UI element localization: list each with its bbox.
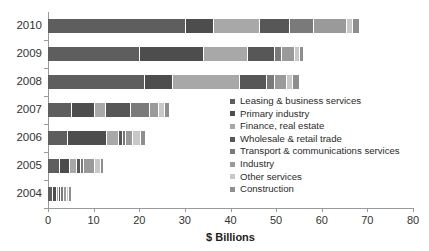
y-tick-mark <box>44 40 48 41</box>
bar-segment[interactable] <box>70 159 77 173</box>
x-tick-mark <box>367 208 368 212</box>
bar-2008[interactable] <box>0 75 429 89</box>
bar-segment[interactable] <box>275 75 287 89</box>
x-tick-label-80: 80 <box>393 214 429 226</box>
legend-swatch-icon <box>230 124 235 129</box>
bar-segment[interactable] <box>133 131 140 145</box>
y-tick-mark <box>44 124 48 125</box>
bar-segment[interactable] <box>260 19 290 33</box>
bar-segment[interactable] <box>314 19 347 33</box>
bar-segment[interactable] <box>101 159 103 173</box>
bar-segment[interactable] <box>290 19 314 33</box>
legend-label: Construction <box>240 183 294 196</box>
legend-swatch-icon <box>230 174 235 179</box>
x-tick-label-60: 60 <box>302 214 342 226</box>
x-tick-label-30: 30 <box>165 214 205 226</box>
legend-item-4[interactable]: Transport & communications services <box>230 145 420 158</box>
legend-item-2[interactable]: Finance, real estate <box>230 120 420 133</box>
legend-label: Primary industry <box>240 108 309 121</box>
stacked-bar-chart: 2010200920082007200620052004 01020304050… <box>0 0 429 251</box>
bar-segment[interactable] <box>131 103 149 117</box>
bar-segment[interactable] <box>300 47 304 61</box>
legend-swatch-icon <box>230 149 235 154</box>
legend-item-0[interactable]: Leasing & business services <box>230 95 420 108</box>
legend-label: Industry <box>240 158 274 171</box>
bar-segment[interactable] <box>95 103 106 117</box>
legend-item-1[interactable]: Primary industry <box>230 108 420 121</box>
x-tick-label-50: 50 <box>256 214 296 226</box>
bar-segment[interactable] <box>214 19 260 33</box>
legend-swatch-icon <box>230 111 235 116</box>
x-tick-mark <box>48 208 49 212</box>
bar-segment[interactable] <box>140 47 203 61</box>
bar-segment[interactable] <box>248 47 274 61</box>
bar-segment[interactable] <box>141 131 145 145</box>
bar-segment[interactable] <box>106 103 132 117</box>
legend-item-3[interactable]: Wholesale & retail trade <box>230 133 420 146</box>
legend-label: Other services <box>240 171 302 184</box>
bar-segment[interactable] <box>267 75 275 89</box>
x-tick-label-70: 70 <box>347 214 387 226</box>
bar-segment[interactable] <box>293 75 298 89</box>
bar-segment[interactable] <box>186 19 214 33</box>
legend-swatch-icon <box>230 99 235 104</box>
x-tick-label-0: 0 <box>28 214 68 226</box>
bar-segment[interactable] <box>48 131 68 145</box>
bar-2009[interactable] <box>0 47 429 61</box>
bar-segment[interactable] <box>48 159 60 173</box>
legend-item-7[interactable]: Construction <box>230 183 420 196</box>
x-tick-label-40: 40 <box>211 214 251 226</box>
x-tick-mark <box>231 208 232 212</box>
x-axis-title: $ Billions <box>48 231 413 243</box>
x-tick-mark <box>185 208 186 212</box>
bar-segment[interactable] <box>275 47 282 61</box>
bar-segment[interactable] <box>126 131 133 145</box>
x-tick-mark <box>276 208 277 212</box>
legend-item-5[interactable]: Industry <box>230 158 420 171</box>
legend-swatch-icon <box>230 137 235 142</box>
legend-label: Leasing & business services <box>240 95 361 108</box>
bar-segment[interactable] <box>282 47 296 61</box>
bar-segment[interactable] <box>48 75 145 89</box>
legend-swatch-icon <box>230 162 235 167</box>
y-tick-mark <box>44 152 48 153</box>
bar-segment[interactable] <box>204 47 249 61</box>
bar-segment[interactable] <box>353 19 359 33</box>
bar-segment[interactable] <box>60 159 70 173</box>
bar-segment[interactable] <box>240 75 266 89</box>
bar-segment[interactable] <box>107 131 119 145</box>
y-tick-mark <box>44 68 48 69</box>
bar-2010[interactable] <box>0 19 429 33</box>
bar-segment[interactable] <box>48 19 186 33</box>
legend-swatch-icon <box>230 187 235 192</box>
bar-segment[interactable] <box>150 103 160 117</box>
bar-segment[interactable] <box>68 131 107 145</box>
x-tick-mark <box>413 208 414 212</box>
bar-segment[interactable] <box>69 187 71 201</box>
bar-segment[interactable] <box>165 103 169 117</box>
legend-label: Wholesale & retail trade <box>240 133 342 146</box>
y-tick-mark <box>44 180 48 181</box>
bar-segment[interactable] <box>48 47 140 61</box>
legend-label: Finance, real estate <box>240 120 324 133</box>
x-tick-mark <box>94 208 95 212</box>
legend-item-6[interactable]: Other services <box>230 171 420 184</box>
x-tick-mark <box>322 208 323 212</box>
chart-legend: Leasing & business servicesPrimary indus… <box>230 95 420 196</box>
bar-segment[interactable] <box>173 75 240 89</box>
bar-segment[interactable] <box>84 159 96 173</box>
x-tick-mark <box>139 208 140 212</box>
y-tick-mark <box>44 96 48 97</box>
bar-segment[interactable] <box>72 103 95 117</box>
legend-label: Transport & communications services <box>240 145 400 158</box>
bar-segment[interactable] <box>145 75 173 89</box>
x-tick-label-10: 10 <box>74 214 114 226</box>
bar-segment[interactable] <box>48 103 72 117</box>
x-tick-label-20: 20 <box>119 214 159 226</box>
